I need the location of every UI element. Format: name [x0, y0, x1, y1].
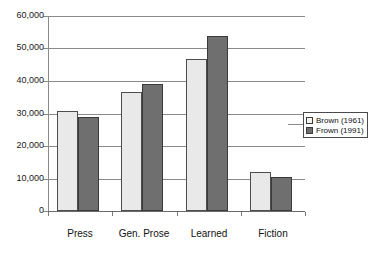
bar-chart: 60,00050,00040,00030,00020,00010,0000 Pr… — [0, 0, 374, 255]
y-axis-tick-label: 60,000 — [16, 11, 44, 20]
bar-groups — [48, 16, 305, 211]
bar[interactable] — [207, 36, 228, 211]
bar[interactable] — [250, 172, 271, 211]
legend-item[interactable]: Brown (1961) — [306, 115, 364, 125]
bar-group — [177, 16, 241, 211]
legend-item[interactable]: Frown (1991) — [306, 125, 364, 135]
bar[interactable] — [121, 92, 142, 211]
x-axis-tick — [241, 212, 242, 216]
x-axis-tick — [305, 212, 306, 216]
legend-swatch-icon — [306, 117, 313, 124]
y-axis-tick-label: 0 — [39, 206, 44, 215]
x-axis-tick — [112, 212, 113, 216]
y-axis-tick-label: 10,000 — [16, 174, 44, 183]
bar-group — [48, 16, 112, 211]
legend-item-label: Brown (1961) — [316, 116, 364, 125]
y-axis-tick-label: 50,000 — [16, 43, 44, 52]
bar[interactable] — [78, 117, 99, 211]
x-axis-tick-label: Fiction — [241, 228, 305, 239]
bar[interactable] — [57, 111, 78, 211]
plot-area — [48, 16, 305, 211]
x-axis-tick-label: Learned — [177, 228, 241, 239]
bar[interactable] — [186, 59, 207, 211]
chart-legend: Brown (1961) Frown (1991) — [303, 112, 368, 138]
bar[interactable] — [271, 177, 292, 211]
y-axis-tick-label: 30,000 — [16, 109, 44, 118]
bar-group — [112, 16, 176, 211]
legend-leader-line — [288, 124, 304, 125]
bar[interactable] — [142, 84, 163, 211]
y-axis-tick-label: 20,000 — [16, 141, 44, 150]
y-axis-tick-label: 40,000 — [16, 76, 44, 85]
x-axis-tick — [177, 212, 178, 216]
legend-swatch-icon — [306, 127, 313, 134]
x-axis-tick-label: Gen. Prose — [112, 228, 176, 239]
x-axis-tick — [48, 212, 49, 216]
bar-group — [241, 16, 305, 211]
x-axis-tick-label: Press — [48, 228, 112, 239]
legend-item-label: Frown (1991) — [316, 126, 364, 135]
